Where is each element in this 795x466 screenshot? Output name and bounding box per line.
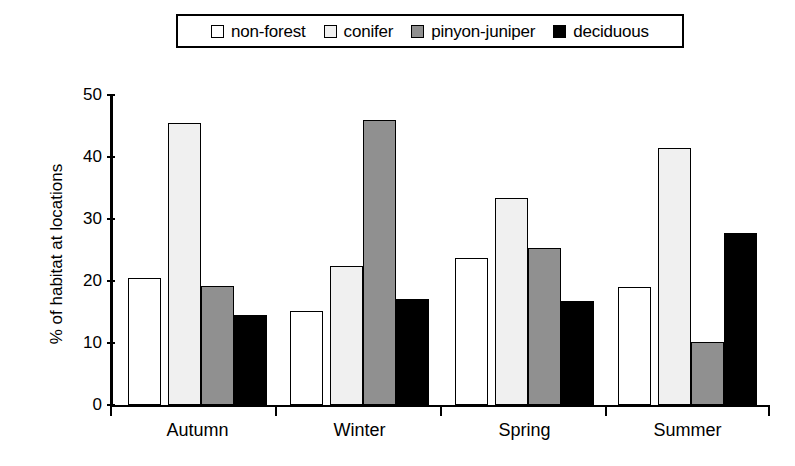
bar-autumn-conifer bbox=[168, 123, 201, 405]
x-axis-ticks bbox=[110, 407, 770, 417]
bar-spring-non-forest bbox=[455, 258, 488, 405]
x-tick-mark-2 bbox=[440, 407, 442, 416]
x-axis-label-spring: Spring bbox=[455, 420, 595, 441]
x-axis-labels: AutumnWinterSpringSummer bbox=[110, 420, 770, 450]
bar-summer-non-forest bbox=[618, 287, 651, 405]
bar-spring-conifer bbox=[495, 198, 528, 405]
x-tick-mark-4 bbox=[768, 407, 770, 416]
y-tick-10: 10 bbox=[45, 333, 115, 353]
y-tick-label: 50 bbox=[83, 85, 107, 105]
y-axis-ticks: 50403020100 bbox=[45, 86, 115, 416]
y-tick-label: 40 bbox=[83, 147, 107, 167]
bar-winter-deciduous bbox=[396, 299, 429, 405]
bar-summer-deciduous bbox=[724, 233, 757, 405]
bar-winter-conifer bbox=[330, 266, 363, 405]
y-tick-30: 30 bbox=[45, 209, 115, 229]
bar-spring-deciduous bbox=[561, 301, 594, 405]
x-axis-label-summer: Summer bbox=[618, 420, 758, 441]
y-tick-label: 0 bbox=[93, 395, 107, 415]
x-axis-label-autumn: Autumn bbox=[128, 420, 268, 441]
bar-autumn-pinyon-juniper bbox=[201, 286, 234, 405]
y-tick-label: 20 bbox=[83, 271, 107, 291]
y-tick-label: 30 bbox=[83, 209, 107, 229]
bar-winter-pinyon-juniper bbox=[363, 120, 396, 405]
x-axis-label-winter: Winter bbox=[290, 420, 430, 441]
x-tick-mark-0 bbox=[110, 407, 112, 416]
x-tick-mark-3 bbox=[605, 407, 607, 416]
bar-autumn-non-forest bbox=[128, 278, 161, 405]
y-tick-20: 20 bbox=[45, 271, 115, 291]
bar-summer-pinyon-juniper bbox=[691, 342, 724, 405]
y-tick-50: 50 bbox=[45, 85, 115, 105]
x-tick-mark-1 bbox=[275, 407, 277, 416]
bar-summer-conifer bbox=[658, 148, 691, 405]
y-tick-40: 40 bbox=[45, 147, 115, 167]
y-tick-label: 10 bbox=[83, 333, 107, 353]
bar-chart: % of habitat at locations 50403020100 Au… bbox=[0, 0, 795, 466]
y-tick-0: 0 bbox=[45, 395, 115, 415]
bar-spring-pinyon-juniper bbox=[528, 248, 561, 405]
bar-autumn-deciduous bbox=[234, 315, 267, 405]
bar-winter-non-forest bbox=[290, 311, 323, 405]
bars-layer bbox=[110, 95, 770, 405]
